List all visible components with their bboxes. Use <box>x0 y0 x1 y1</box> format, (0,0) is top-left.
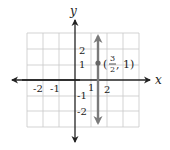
tick-x-1: 1 <box>88 82 94 93</box>
svg-text:(: ( <box>103 58 107 71</box>
tick-y-neg2: -2 <box>77 106 87 117</box>
tick-y-neg1: -1 <box>77 90 87 101</box>
y-axis-label: y <box>69 4 77 18</box>
svg-text:2: 2 <box>110 65 115 74</box>
svg-text:3: 3 <box>110 54 115 63</box>
point-label: ( 3 2 , 1) <box>103 54 134 74</box>
tick-y-1: 1 <box>79 59 85 70</box>
tick-y-2: 2 <box>79 45 85 56</box>
svg-text:, 1): , 1) <box>116 58 134 71</box>
coordinate-plane: y x -2 -1 1 2 2 1 -1 -2 ( 3 2 , 1) <box>0 0 170 150</box>
tick-x-neg1: -1 <box>50 83 60 94</box>
point-3-2-1 <box>95 60 100 65</box>
x-axis-label: x <box>155 73 162 87</box>
tick-x-2: 2 <box>104 84 110 95</box>
tick-x-neg2: -2 <box>33 83 43 94</box>
